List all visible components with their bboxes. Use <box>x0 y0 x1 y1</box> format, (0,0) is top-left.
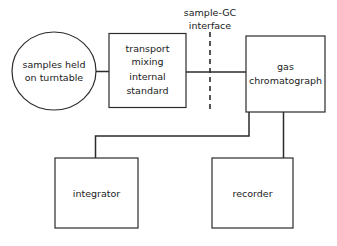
transport-label-line-2: mixing <box>131 56 163 67</box>
node-turntable: samples held on turntable <box>12 32 96 110</box>
node-gas-chromatograph: gas chromatograph <box>246 36 325 112</box>
annotation-sample-gc-interface: sample-GC interface <box>184 7 237 31</box>
turntable-label-line-2: on turntable <box>25 72 84 83</box>
connector-gc-to-integrator <box>96 112 250 158</box>
turntable-label-line-1: samples held <box>22 59 85 70</box>
transport-label-line-3: internal <box>129 71 165 82</box>
transport-label-line-1: transport <box>126 43 170 54</box>
node-integrator: integrator <box>55 158 138 228</box>
gas-chromatograph-label-line-1: gas <box>277 61 294 72</box>
recorder-label: recorder <box>232 188 272 199</box>
transport-label-line-4: standard <box>126 85 168 96</box>
node-transport: transport mixing internal standard <box>109 34 186 108</box>
sample-gc-interface-label-line-2: interface <box>189 20 232 31</box>
integrator-label: integrator <box>73 188 121 199</box>
node-recorder: recorder <box>212 158 293 228</box>
gas-chromatograph-label-line-2: chromatograph <box>249 75 322 86</box>
block-diagram: samples held on turntable transport mixi… <box>0 0 337 246</box>
sample-gc-interface-label-line-1: sample-GC <box>184 7 237 18</box>
